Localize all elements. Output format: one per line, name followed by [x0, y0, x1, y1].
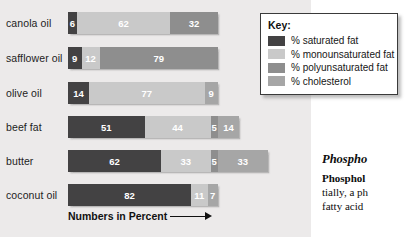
- bar-segment-value: 82: [124, 190, 135, 201]
- bar-segment-sat: 14: [68, 82, 89, 104]
- bar-segment-value: 77: [141, 88, 152, 99]
- legend-swatch-icon: [268, 63, 285, 73]
- bar-track: 6233533: [68, 150, 268, 172]
- bar-segment-poly: 79: [100, 47, 219, 69]
- bar-row: butter6233533: [0, 150, 311, 172]
- bar-track: 14779: [68, 82, 218, 104]
- bar-row: beef fat5144514: [0, 116, 311, 138]
- bar-row-label: canola oil: [6, 17, 51, 29]
- legend-item: % saturated fat: [268, 34, 391, 47]
- bar-segment-value: 33: [237, 156, 248, 167]
- bar-segment-chol: 33: [218, 150, 268, 172]
- legend-item-label: % saturated fat: [291, 35, 358, 46]
- bar-track: 66232: [68, 12, 218, 34]
- side-heading: Phospho: [322, 152, 410, 167]
- bar-track: 5144514: [68, 116, 239, 138]
- bar-segment-mono: 33: [161, 150, 211, 172]
- bar-segment-value: 7: [210, 190, 215, 201]
- bar-segment-value: 33: [180, 156, 191, 167]
- bar-segment-value: 14: [73, 88, 84, 99]
- bar-segment-value: 12: [85, 53, 96, 64]
- legend-swatch-icon: [268, 76, 285, 86]
- legend-title: Key:: [268, 19, 391, 31]
- legend-items-container: % saturated fat% monounsaturated fat% po…: [268, 34, 391, 88]
- legend-item: % cholesterol: [268, 75, 391, 88]
- legend-swatch-icon: [268, 49, 285, 59]
- bar-segment-value: 79: [153, 53, 164, 64]
- bar-segment-poly: 32: [170, 12, 218, 34]
- bar-segment-value: 44: [172, 122, 183, 133]
- bar-segment-mono: 12: [82, 47, 100, 69]
- bar-segment-sat: 51: [68, 116, 145, 138]
- side-body-line: tially, a ph: [322, 186, 410, 200]
- side-subheading: Phosphol: [322, 172, 410, 184]
- bar-segment-value: 51: [101, 122, 112, 133]
- axis-caption: Numbers in Percent: [68, 210, 212, 222]
- legend-item: % polyunsaturated fat: [268, 61, 391, 74]
- bar-row-label: butter: [6, 155, 33, 167]
- bar-segment-poly: 5: [211, 150, 219, 172]
- bar-segment-value: 6: [70, 18, 75, 29]
- bar-segment-value: 14: [223, 122, 234, 133]
- bar-segment-mono: 44: [145, 116, 211, 138]
- bar-segment-value: 9: [209, 88, 214, 99]
- side-article-text: Phospho Phosphol tially, a phfatty acid: [322, 152, 410, 237]
- bar-segment-sat: 9: [68, 47, 82, 69]
- bar-segment-sat: 6: [68, 12, 77, 34]
- bar-segment-value: 11: [194, 190, 204, 201]
- bar-row-label: safflower oil: [6, 52, 63, 64]
- bar-segment-mono: 77: [89, 82, 205, 104]
- bar-row-label: coconut oil: [6, 189, 57, 201]
- bar-segment-sat: 62: [68, 150, 161, 172]
- bar-track: 91279: [68, 47, 218, 69]
- bar-row-label: olive oil: [6, 87, 42, 99]
- bar-segment-mono: 11: [191, 184, 208, 206]
- chart-legend: Key: % saturated fat% monounsaturated fa…: [260, 13, 398, 95]
- bar-segment-value: 5: [212, 156, 217, 167]
- side-body-line: fatty acid: [322, 200, 410, 214]
- bar-segment-chol: 7: [208, 184, 219, 206]
- axis-caption-label: Numbers in Percent: [68, 210, 167, 222]
- bar-segment-value: 62: [118, 18, 129, 29]
- legend-swatch-icon: [268, 36, 285, 46]
- bar-segment-sat: 82: [68, 184, 191, 206]
- bar-segment-chol: 14: [218, 116, 239, 138]
- arrow-right-icon: [170, 212, 212, 221]
- bar-segment-poly: 5: [211, 116, 219, 138]
- bar-segment-value: 62: [109, 156, 120, 167]
- bar-segment-mono: 62: [77, 12, 170, 34]
- bar-track: 82117: [68, 184, 218, 206]
- bar-segment-chol: 9: [205, 82, 219, 104]
- bar-segment-value: 32: [189, 18, 200, 29]
- bar-segment-value: 9: [72, 53, 77, 64]
- legend-item: % monounsaturated fat: [268, 48, 391, 61]
- bar-row-label: beef fat: [6, 121, 42, 133]
- legend-item-label: % cholesterol: [291, 76, 351, 87]
- side-body-lines: tially, a phfatty acid: [322, 186, 410, 213]
- page-root: canola oil66232safflower oil91279olive o…: [0, 0, 410, 237]
- bar-segment-value: 5: [212, 122, 217, 133]
- legend-item-label: % polyunsaturated fat: [291, 62, 388, 73]
- bar-row: coconut oil82117: [0, 184, 311, 206]
- legend-item-label: % monounsaturated fat: [291, 49, 394, 60]
